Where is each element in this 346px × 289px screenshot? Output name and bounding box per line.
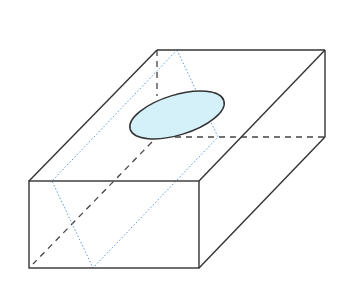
bottom-right-edge [199, 137, 325, 268]
hidden-edges [33, 50, 325, 264]
front-face [29, 181, 199, 268]
box-diagram [0, 0, 346, 289]
visible-edges [29, 50, 325, 268]
diagram-canvas [0, 0, 346, 289]
ellipse-opening [124, 82, 229, 149]
hidden-diagonal-edge [33, 142, 152, 264]
